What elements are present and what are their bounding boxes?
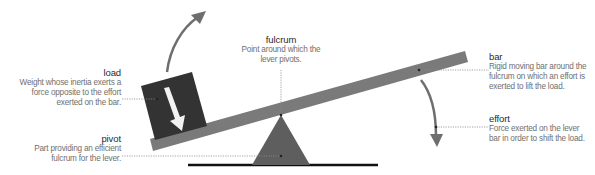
fulcrum-triangle — [252, 115, 310, 165]
load-leader-dot — [156, 98, 159, 101]
effort-label: effort Force exerted on the lever bar in… — [489, 113, 591, 144]
pivot-description: Part providing an efficient fulcrum for … — [34, 144, 121, 163]
fulcrum-description: Point around which the lever pivots. — [242, 45, 321, 64]
effort-title: effort — [489, 113, 591, 124]
bar-description: Rigid moving bar around the fulcrum on w… — [489, 62, 586, 91]
pivot-title: pivot — [10, 133, 121, 144]
pivot-leader-dot — [280, 155, 283, 158]
effort-description: Force exerted on the lever bar in order … — [489, 124, 585, 143]
curved-arrow-up-icon — [167, 11, 206, 72]
bar-leader-dot — [418, 69, 421, 72]
load-description: Weight whose inertia exerts a force oppo… — [20, 78, 121, 107]
pivot-label: pivot Part providing an efficient fulcru… — [10, 133, 121, 164]
fulcrum-title: fulcrum — [236, 34, 326, 45]
bar-label: bar Rigid moving bar around the fulcrum … — [489, 51, 589, 92]
fulcrum-leader-dot — [280, 114, 283, 117]
curved-arrow-down-icon — [421, 80, 443, 147]
effort-leader-dot — [435, 126, 438, 129]
bar-title: bar — [489, 51, 589, 62]
fulcrum-label: fulcrum Point around which the lever piv… — [236, 34, 326, 65]
load-label: load Weight whose inertia exerts a force… — [10, 67, 121, 108]
load-title: load — [10, 67, 121, 78]
